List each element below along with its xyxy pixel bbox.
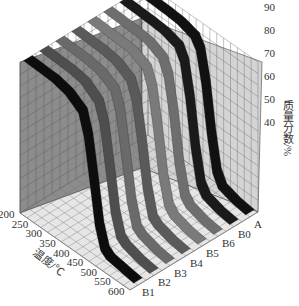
z-tick-70: 70 xyxy=(264,48,275,59)
series-tick-B3: B3 xyxy=(174,268,187,279)
z-tick-60: 60 xyxy=(264,71,275,82)
series-tick-B0: B0 xyxy=(238,229,251,240)
series-tick-B4: B4 xyxy=(190,258,203,269)
z-tick-50: 50 xyxy=(264,94,275,105)
z-tick-90: 90 xyxy=(264,2,275,13)
z-tick-80: 80 xyxy=(264,25,275,36)
series-tick-B1: B1 xyxy=(142,287,155,298)
series-tick-A: A xyxy=(254,219,262,230)
z-axis-label: 质量分数/% xyxy=(280,100,296,156)
series-tick-B2: B2 xyxy=(158,277,171,288)
z-tick-40: 40 xyxy=(264,117,275,128)
x-tick-600: 600 xyxy=(108,286,125,297)
series-tick-B6: B6 xyxy=(222,238,235,249)
series-tick-B5: B5 xyxy=(206,248,219,259)
